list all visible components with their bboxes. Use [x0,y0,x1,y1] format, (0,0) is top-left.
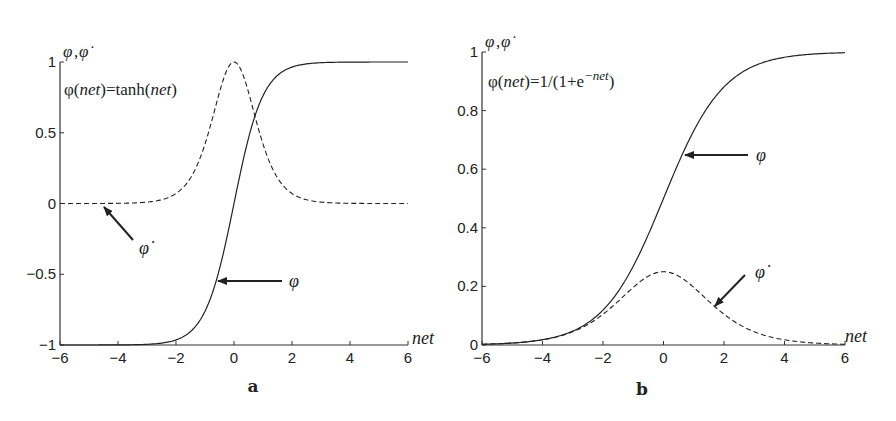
y-tick-label: 0.6 [457,160,478,177]
x-tick-label: 4 [780,349,788,366]
panel-b-phi-dot-arrow-label: φ̇ [755,262,771,282]
x-tick-label: −4 [109,349,126,366]
panel-a-equation: φ(net)=tanh(net) [64,80,177,99]
panel-b-phi-arrow-label: φ [756,145,766,165]
x-tick-label: 0 [230,349,238,366]
activation-functions-figure: −6−4−20246 −1−0.500.51 φ , φ̇ φ(net)=tan… [0,0,896,421]
eq-a-prefix: φ( [64,80,80,99]
panel-a-y-ticks: −1−0.500.51 [26,53,64,353]
x-tick-label: 2 [720,349,728,366]
x-tick-label: 6 [841,349,849,366]
panel-a: −6−4−20246 −1−0.500.51 φ , φ̇ φ(net)=tan… [26,42,435,396]
panel-b: −6−4−20246 00.20.40.60.81 φ , φ̇ φ(net)=… [457,32,868,399]
y-tick-label: 0 [48,195,56,212]
panel-a-phi-dot-arrow-label: φ̇ [139,238,155,258]
panel-b-phi-curve [482,53,845,345]
x-tick-label: 4 [346,349,354,366]
x-tick-label: −2 [167,349,184,366]
eq-a-net2: net [150,80,172,99]
panel-b-equation: φ(net)=1/(1+e−net) [488,68,614,91]
x-tick-label: −2 [594,349,611,366]
panel-a-label: a [247,376,258,396]
panel-b-x-label: net [845,326,868,346]
y-tick-label: 0.8 [457,102,478,119]
panel-b-y-label-dot: φ̇ [501,32,515,51]
panel-b-y-label: φ [485,32,494,51]
panel-a-y-label-dot: φ̇ [79,42,93,61]
panel-a-y-label: φ [63,42,72,61]
x-tick-label: −4 [534,349,551,366]
panel-b-phi-dot-curve [482,272,845,345]
eq-b-net: net [503,72,525,91]
eq-a-net1: net [79,80,101,99]
y-tick-label: −0.5 [26,265,56,282]
eq-b-mid: )=1/(1+e [524,72,584,91]
panel-b-y-label-comma: , [496,32,500,51]
panel-b-label: b [636,379,648,399]
panel-a-x-label: net [412,328,435,348]
panel-a-y-label-comma: , [74,42,78,61]
y-tick-label: 1 [48,53,56,70]
y-tick-label: 0.2 [457,277,478,294]
panel-a-phi-dot-arrow [104,207,133,240]
eq-b-exp: −net [584,68,609,83]
x-tick-label: 6 [404,349,412,366]
y-tick-label: 0.4 [457,219,478,236]
panel-a-phi-arrow-label: φ [289,271,299,291]
panel-b-phi-dot-arrow [715,275,745,306]
y-tick-label: 0 [470,336,478,353]
y-tick-label: −1 [39,336,56,353]
eq-a-suffix: ) [171,80,177,99]
eq-b-prefix: φ( [488,72,504,91]
x-tick-label: 0 [659,349,667,366]
eq-b-suffix: ) [609,72,615,91]
x-tick-label: 2 [288,349,296,366]
y-tick-label: 1 [470,43,478,60]
eq-a-mid: )=tanh( [100,80,151,99]
y-tick-label: 0.5 [35,124,56,141]
